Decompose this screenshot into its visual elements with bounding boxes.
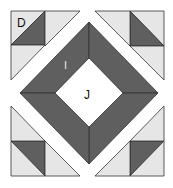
quilt-block-diagram: D I J: [0, 0, 173, 188]
label-j: J: [84, 88, 90, 102]
label-i: I: [64, 59, 67, 71]
label-d: D: [17, 16, 26, 30]
